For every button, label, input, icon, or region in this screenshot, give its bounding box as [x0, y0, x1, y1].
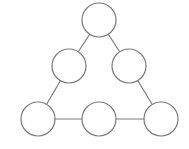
node-mid-right: [112, 49, 146, 83]
node-bottom-right: [144, 102, 178, 136]
triangle-circle-diagram: [0, 0, 189, 149]
node-mid-left: [52, 49, 86, 83]
node-top: [82, 3, 116, 37]
node-bottom-middle: [82, 102, 116, 136]
nodes-group: [21, 3, 178, 136]
node-bottom-left: [21, 102, 55, 136]
